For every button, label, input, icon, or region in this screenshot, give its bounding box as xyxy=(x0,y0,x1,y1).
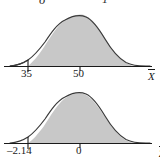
panel-sampling-distribution-xbar xyxy=(4,15,152,72)
tick-label-50: 50 xyxy=(73,68,84,79)
tick-label-0: 0 xyxy=(76,145,82,156)
overbar-z xyxy=(159,146,160,147)
panel-standard-normal-z xyxy=(4,93,152,149)
distribution-curves-svg xyxy=(0,0,160,159)
overbar-x xyxy=(148,69,155,70)
axis-label-xbar: X xyxy=(148,71,155,82)
axis-label-z: Z xyxy=(159,148,160,159)
tick-label-neg214: –2.14 xyxy=(7,145,32,156)
axis-label-z-text: Z xyxy=(159,147,160,159)
axis-label-xbar-text: X xyxy=(148,70,155,82)
curve-left-tail-xbar xyxy=(10,60,28,66)
tick-label-35: 35 xyxy=(21,68,32,79)
normal-distribution-figure: σ 1 35 50 X –2.14 0 Z xyxy=(0,0,160,159)
